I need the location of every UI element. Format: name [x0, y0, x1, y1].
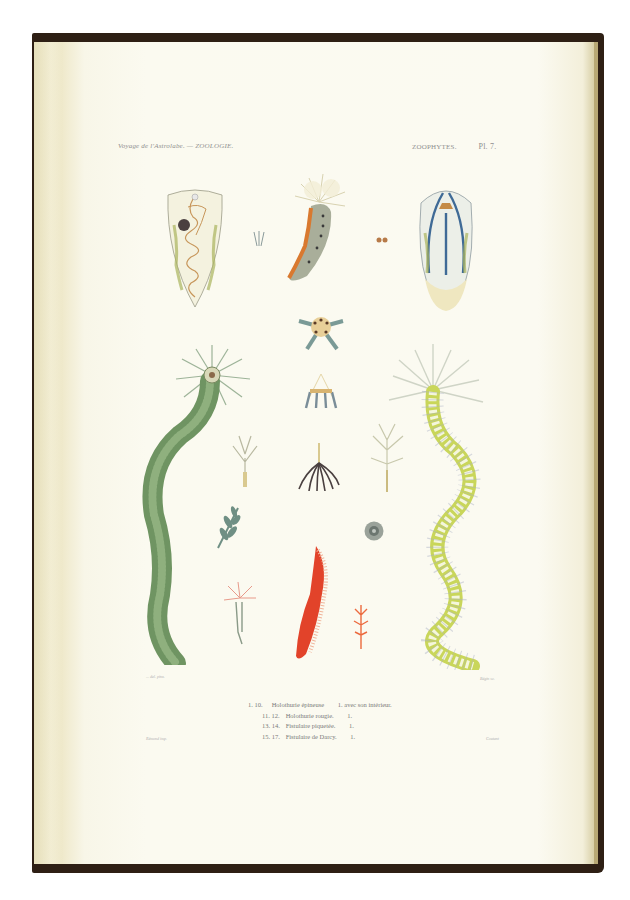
figure-pink-anemone — [222, 580, 258, 650]
legend-row: 15. 17. Fistulaire de Darcy. 1. — [248, 732, 392, 743]
spine-shadow — [34, 42, 64, 864]
figure-red-branch — [350, 603, 372, 649]
plate-header-left: Voyage de l'Astrolabe. — ZOOLOGIE. — [118, 142, 233, 150]
legend-scale: 1. — [350, 733, 355, 740]
figure-red-holothurian — [292, 544, 334, 662]
figure-tufted-holdfast — [296, 443, 342, 493]
figure-small-detail-3 — [375, 235, 389, 245]
plate-section: ZOOPHYTES. — [412, 143, 457, 151]
figure-green-leaf — [214, 504, 244, 550]
legend-row: 11. 12. Holothurie rougie. 1. — [248, 711, 392, 722]
figure-fistulaire-yellow — [385, 340, 495, 670]
credit-right-bottom: Coutant — [486, 736, 499, 741]
figure-branch-left — [226, 432, 264, 487]
plate-legend: 1. 10. Holothurie épineuse 1. avec son i… — [248, 700, 392, 742]
credit-right-top: Bégin sc. — [480, 676, 495, 681]
figure-star-detail-5 — [293, 303, 349, 355]
legend-species: Fistulaire de Darcy. — [286, 733, 337, 740]
credit-left-bottom: Rémond imp. — [146, 736, 167, 741]
legend-species: Holothurie rougie. — [286, 712, 334, 719]
legend-row: 13. 14. Fistulaire piquetée. 1. — [248, 721, 392, 732]
figure-disc-section — [363, 520, 385, 542]
legend-scale: 1. — [349, 722, 354, 729]
figure-holothurian-striped — [283, 168, 355, 288]
plate-header-right: ZOOPHYTES. Pl. 7. — [412, 142, 496, 151]
legend-species: Holothurie épineuse — [272, 701, 325, 708]
figure-holothurian-blue — [415, 183, 477, 313]
plate-number: Pl. 7. — [479, 142, 497, 151]
legend-species: Fistulaire piquetée. — [286, 722, 336, 729]
legend-row: 1. 10. Holothurie épineuse 1. avec son i… — [248, 700, 392, 711]
figure-claw-detail-6 — [300, 370, 342, 412]
figure-holothurian-interior — [160, 185, 230, 310]
legend-scale: 1. avec son intérieur. — [338, 701, 392, 708]
credit-left-top: ... del. pinx. — [146, 674, 165, 679]
figure-small-detail-2 — [251, 230, 267, 250]
legend-scale: 1. — [347, 712, 352, 719]
figure-branch-right — [364, 420, 410, 492]
